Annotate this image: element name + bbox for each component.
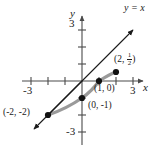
point-marker xyxy=(79,95,85,101)
x-axis-variable-label: x xyxy=(143,82,148,93)
point-label-neg2-neg2: (-2, -2) xyxy=(3,108,30,118)
fraction-numerator: 1 xyxy=(127,52,133,59)
coordinate-graph-figure: y x 3 -3 -3 3 y = x (-2, -2) (0, -1) (1,… xyxy=(0,0,153,149)
y-tick-label-neg3: -3 xyxy=(66,126,75,137)
point-label-1-0: (1, 0) xyxy=(94,84,115,94)
point-label-0-neg1: (0, -1) xyxy=(88,101,112,111)
x-tick-label-neg3: -3 xyxy=(23,85,32,96)
equation-label-y-equals-x: y = x xyxy=(124,3,145,13)
point-marker xyxy=(113,69,119,75)
fraction-one-half: 12 xyxy=(127,52,133,68)
graph-canvas xyxy=(0,0,153,149)
point-marker xyxy=(45,112,51,118)
point-label-2-one-half: (2, 12) xyxy=(114,52,135,68)
y-tick-label-3: 3 xyxy=(69,18,75,29)
point-label-2-one-half-suffix: ) xyxy=(132,54,135,64)
x-tick-label-3: 3 xyxy=(130,85,136,96)
fraction-denominator: 2 xyxy=(127,59,133,67)
point-label-2-one-half-prefix: (2, xyxy=(114,54,127,64)
